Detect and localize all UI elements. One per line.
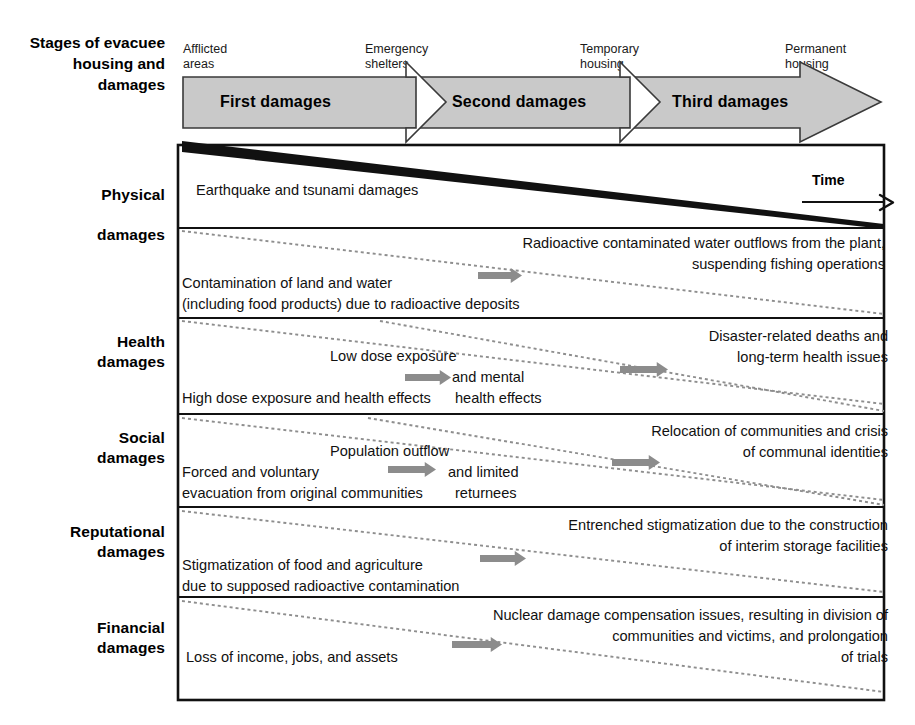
cell-text-social-0: Relocation of communities and crisis of … bbox=[510, 421, 888, 463]
cell-text-health-2: and mental bbox=[452, 367, 592, 388]
cell-text-social-4: returnees bbox=[455, 483, 585, 504]
cell-text-physical-0: Earthquake and tsunami damages bbox=[196, 180, 616, 201]
cell-text-financial-1: Loss of income, jobs, and assets bbox=[186, 647, 496, 668]
cell-text-radiological-0: Radioactive contaminated water outflows … bbox=[425, 233, 885, 275]
row-label-social: Social damages bbox=[20, 428, 165, 468]
row-label-financial: Financial damages bbox=[20, 618, 165, 658]
row-label-reputational: Reputational damages bbox=[20, 522, 165, 562]
cell-text-reputational-0: Entrenched stigmatization due to the con… bbox=[460, 515, 888, 557]
cell-text-social-1: Population outflow bbox=[330, 441, 520, 462]
cell-text-health-0: Disaster-related deaths and long-term he… bbox=[570, 326, 888, 368]
cell-text-health-1: Low dose exposure bbox=[330, 346, 530, 367]
row-label-physical: Physical damages bbox=[20, 185, 165, 245]
cell-text-reputational-1: Stigmatization of food and agriculture d… bbox=[182, 555, 562, 597]
row-label-health: Health damages bbox=[20, 332, 165, 372]
cell-text-health-4: health effects bbox=[455, 388, 605, 409]
transition-arrow-icon-health-0 bbox=[405, 370, 451, 385]
cell-text-radiological-1: Contamination of land and water (includi… bbox=[182, 273, 612, 315]
diagram-canvas: Stages of evacuee housing and damages Af… bbox=[0, 0, 915, 725]
